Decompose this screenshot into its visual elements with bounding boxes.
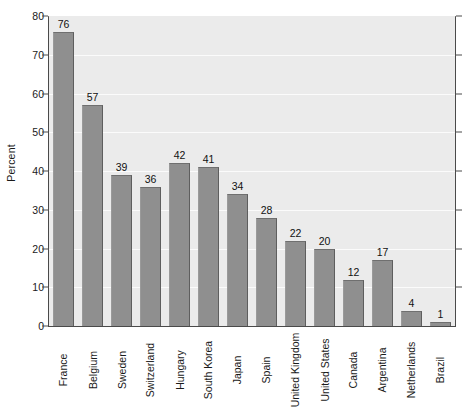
bar-value-label: 57: [87, 91, 99, 103]
bar-value-label: 22: [290, 227, 302, 239]
y-axis-tick: [42, 171, 48, 172]
y-axis-tick: [42, 16, 48, 17]
x-axis-tick-label: Belgium: [78, 330, 107, 418]
x-axis-tick-labels: FranceBelgiumSwedenSwitzerlandHungarySou…: [49, 330, 455, 418]
right-axis-tick: [456, 171, 462, 172]
bars-layer: 76573936424134282220121741: [49, 16, 455, 326]
y-axis-tick: [42, 93, 48, 94]
x-axis-tick-label: Canada: [339, 330, 368, 418]
x-axis-tick-label: Sweden: [107, 330, 136, 418]
bar-value-label: 28: [261, 204, 273, 216]
bar: [256, 218, 277, 327]
x-axis-tick-label: Argentina: [368, 330, 397, 418]
y-axis-tick: [42, 54, 48, 55]
x-axis-tick-label: Hungary: [165, 330, 194, 418]
x-axis-tick-label: United States: [310, 330, 339, 418]
right-axis-tick: [456, 132, 462, 133]
bar-value-label: 17: [377, 246, 389, 258]
bar-value-label: 41: [203, 153, 215, 165]
x-axis-tick-label: Brazil: [426, 330, 455, 418]
right-axis-tick: [456, 93, 462, 94]
bar: [140, 187, 161, 327]
bar: [430, 322, 451, 326]
bar: [198, 167, 219, 326]
bar: [285, 241, 306, 326]
bar-value-label: 39: [116, 161, 128, 173]
x-axis-tick-label: Netherlands: [397, 330, 426, 418]
right-axis-line: [455, 16, 456, 327]
bar: [372, 260, 393, 326]
x-axis-tick-label: Spain: [252, 330, 281, 418]
bar-value-label: 1: [438, 308, 444, 320]
y-axis-tick: [42, 132, 48, 133]
x-axis-tick-label: Switzerland: [136, 330, 165, 418]
bar-value-label: 36: [145, 173, 157, 185]
x-axis-line: [48, 326, 456, 327]
bar-value-label: 4: [409, 297, 415, 309]
right-axis-tick: [456, 16, 462, 17]
right-axis-tick: [456, 209, 462, 210]
bar: [401, 311, 422, 327]
x-axis-tick-label: United Kingdom: [281, 330, 310, 418]
bar: [169, 163, 190, 326]
right-axis-tick: [456, 248, 462, 249]
y-axis-tick: [42, 248, 48, 249]
x-axis-tick-label: South Korea: [194, 330, 223, 418]
x-axis-tick-label: France: [49, 330, 78, 418]
bar: [53, 32, 74, 327]
bar: [82, 105, 103, 326]
bar: [227, 194, 248, 326]
bar-value-label: 76: [58, 18, 70, 30]
right-axis-tick: [456, 287, 462, 288]
y-axis-tick: [42, 209, 48, 210]
y-axis-tick: [42, 326, 48, 327]
bar-value-label: 12: [348, 266, 360, 278]
x-axis-tick-label: Japan: [223, 330, 252, 418]
bar-value-label: 34: [232, 180, 244, 192]
bar-value-label: 20: [319, 235, 331, 247]
bar: [111, 175, 132, 326]
bar: [314, 249, 335, 327]
y-axis-title-label: Percent: [5, 144, 17, 182]
y-axis-tick-labels: 01020304050607080: [18, 16, 44, 326]
right-axis-tick: [456, 54, 462, 55]
y-axis-tick: [42, 287, 48, 288]
bar-chart: Percent 01020304050607080 76573936424134…: [0, 0, 471, 418]
bar-value-label: 42: [174, 149, 186, 161]
bar: [343, 280, 364, 327]
